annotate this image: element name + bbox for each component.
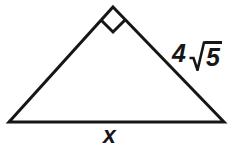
radicand-value: 5 — [205, 41, 222, 71]
radical-expression: 5 — [189, 41, 222, 71]
radical-coefficient: 4 — [172, 41, 186, 66]
geometry-figure: x 4 5 — [0, 0, 242, 149]
right-leg-length-label: 4 5 — [172, 41, 222, 71]
radical-sign-icon — [189, 41, 206, 71]
base-length-label: x — [103, 124, 116, 147]
triangle-drawing — [0, 0, 242, 149]
right-angle-marker-icon — [101, 20, 125, 32]
